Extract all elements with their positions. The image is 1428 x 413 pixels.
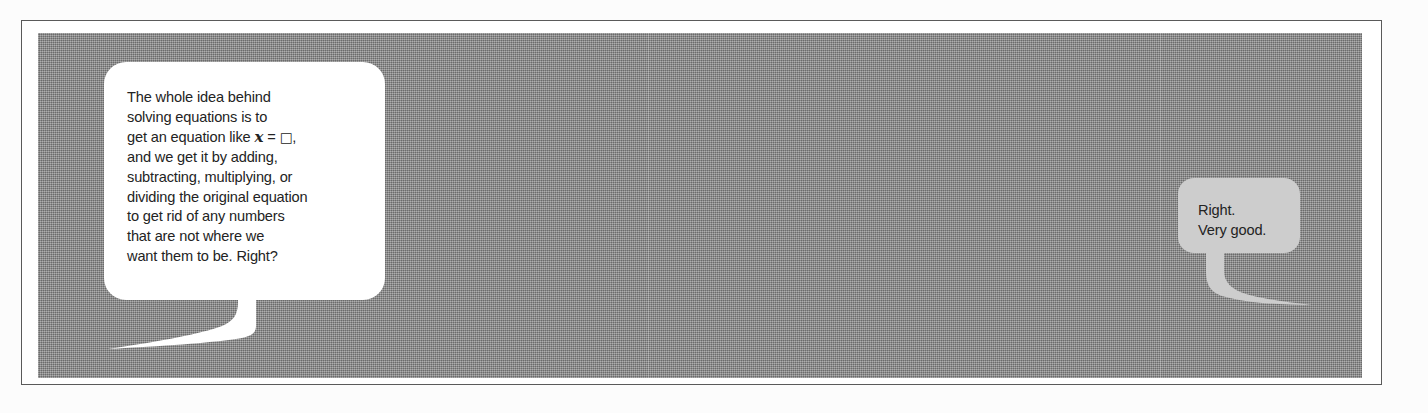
math-line-suffix: , bbox=[292, 129, 296, 145]
scan-seam-line bbox=[1160, 33, 1161, 378]
bubble-left-line-4: and we get it by adding, bbox=[127, 149, 278, 165]
bubble-left-line-3-prefix: get an equation like bbox=[127, 129, 254, 145]
bubble-right-line-1: Right. bbox=[1198, 202, 1235, 218]
bubble-left-line-7: to get rid of any numbers bbox=[127, 208, 285, 224]
bubble-left-line-2: solving equations is to bbox=[127, 109, 267, 125]
bubble-left-line-6: dividing the original equation bbox=[127, 189, 308, 205]
speech-bubble-left: The whole idea behind solving equations … bbox=[104, 62, 394, 352]
bubble-left-line-5: subtracting, multiplying, or bbox=[127, 169, 292, 185]
speech-bubble-right-text: Right. Very good. bbox=[1198, 200, 1266, 241]
bubble-left-line-8: that are not where we bbox=[127, 228, 264, 244]
scan-seam-line bbox=[648, 33, 649, 378]
bubble-left-line-9: want them to be. Right? bbox=[127, 248, 278, 264]
bubble-left-line-1: The whole idea behind bbox=[127, 89, 271, 105]
bubble-right-line-2: Very good. bbox=[1198, 222, 1266, 238]
speech-bubble-left-text: The whole idea behind solving equations … bbox=[127, 88, 308, 267]
comic-panel-scene: The whole idea behind solving equations … bbox=[0, 0, 1428, 413]
speech-bubble-right: Right. Very good. bbox=[1178, 178, 1358, 318]
math-operator-equals: = bbox=[263, 129, 279, 145]
math-placeholder-box-icon: □ bbox=[280, 129, 293, 145]
